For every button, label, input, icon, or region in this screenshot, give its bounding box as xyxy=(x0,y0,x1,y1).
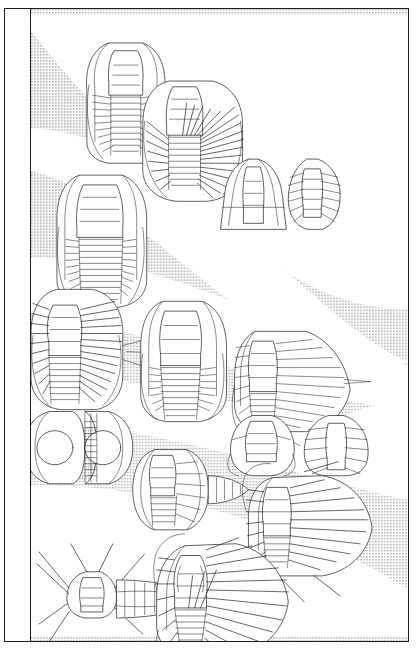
phylogeny-artwork xyxy=(31,9,408,641)
spec-redlichiid-2 xyxy=(141,301,227,421)
illustration-plate xyxy=(31,9,408,641)
trilobite-phylogeny-figure: CORYNEXOCHIDA PTYCHOPARIIDA REDLICHIIDA … xyxy=(0,0,416,649)
order-label-column: CORYNEXOCHIDA PTYCHOPARIIDA REDLICHIIDA … xyxy=(5,9,31,641)
spec-agnostid-pygidium xyxy=(304,416,368,476)
figure-frame: CORYNEXOCHIDA PTYCHOPARIIDA REDLICHIIDA … xyxy=(4,8,409,642)
spec-ptychopariid-1 xyxy=(57,175,147,307)
spec-ptychopariid-pygidium xyxy=(288,159,340,229)
